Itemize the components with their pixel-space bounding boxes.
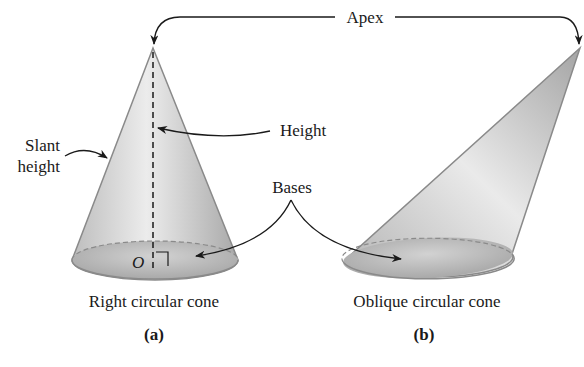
slant-label-line2: height <box>18 157 61 176</box>
panel-a-label: (a) <box>144 325 164 344</box>
cone-b-caption: Oblique circular cone <box>353 292 500 311</box>
apex-callout: Apex <box>154 8 579 44</box>
slant-height-callout: Slant height <box>18 136 108 176</box>
apex-label: Apex <box>347 8 384 27</box>
cones-diagram: O Apex Height Slant height Bases Right c… <box>0 0 584 367</box>
height-label: Height <box>280 121 327 140</box>
slant-label-line1: Slant <box>25 136 60 155</box>
cone-a-caption: Right circular cone <box>89 292 219 311</box>
panel-b-label: (b) <box>414 325 435 344</box>
bases-label: Bases <box>272 178 312 197</box>
right-circular-cone: O <box>72 48 238 280</box>
origin-label: O <box>132 253 144 272</box>
oblique-circular-cone <box>342 48 580 282</box>
apex-arrow-right <box>395 17 579 44</box>
slant-arrow <box>65 150 107 158</box>
apex-arrow-left <box>154 17 335 44</box>
